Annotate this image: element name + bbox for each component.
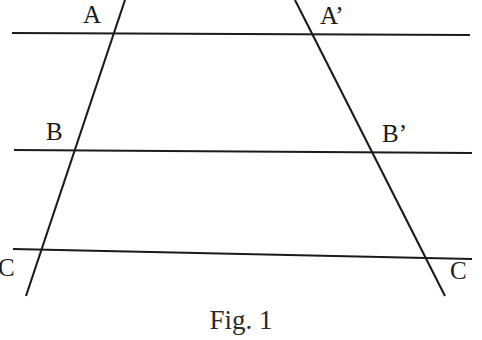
geometry-diagram [0, 0, 482, 340]
right-transversal [295, 0, 445, 296]
point-label-b-prime: B’ [382, 121, 407, 146]
point-label-c-prime: C [450, 258, 467, 283]
point-label-b: B [46, 119, 63, 144]
line-through-B [14, 150, 472, 153]
line-through-C [13, 249, 472, 259]
point-label-a: A [83, 2, 101, 27]
figure-caption: Fig. 1 [0, 305, 482, 336]
line-through-A [12, 33, 470, 35]
figure-container: A A’ B B’ C C Fig. 1 [0, 0, 482, 340]
point-label-a-prime: A’ [320, 3, 344, 28]
point-label-c: C [0, 255, 15, 280]
